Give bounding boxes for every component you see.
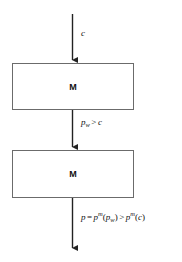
flow-connectors bbox=[0, 0, 182, 262]
edge-label-output-fn2-sup: m bbox=[130, 210, 135, 217]
edge-label-output-arg1-sub: w bbox=[110, 216, 114, 223]
edge-label-middle-operator: > bbox=[90, 117, 98, 127]
edge-label-input: c bbox=[81, 29, 85, 38]
edge-label-output-operator: > bbox=[118, 212, 126, 222]
edge-label-middle-lhs-base: p bbox=[81, 117, 86, 127]
edge-label-middle-rhs-base: c bbox=[98, 117, 102, 127]
process-box-1-label: M bbox=[69, 82, 77, 92]
process-box-2: M bbox=[12, 150, 134, 198]
edge-label-middle-lhs-sub: w bbox=[86, 121, 90, 128]
process-box-1: M bbox=[12, 63, 134, 110]
flowchart-diagram: M M c pw>c p=pm(pw)>pm(c) bbox=[0, 0, 182, 262]
process-box-2-label: M bbox=[69, 169, 77, 179]
edge-label-input-base: c bbox=[81, 28, 85, 38]
edge-label-middle: pw>c bbox=[81, 118, 102, 127]
edge-label-output-equals: = bbox=[86, 212, 94, 222]
edge-label-output-fn1-sup: m bbox=[98, 210, 103, 217]
edge-label-output-result-base: p bbox=[81, 212, 86, 222]
edge-label-output-close-paren-2: ) bbox=[142, 212, 145, 222]
edge-label-output: p=pm(pw)>pm(c) bbox=[81, 213, 145, 222]
